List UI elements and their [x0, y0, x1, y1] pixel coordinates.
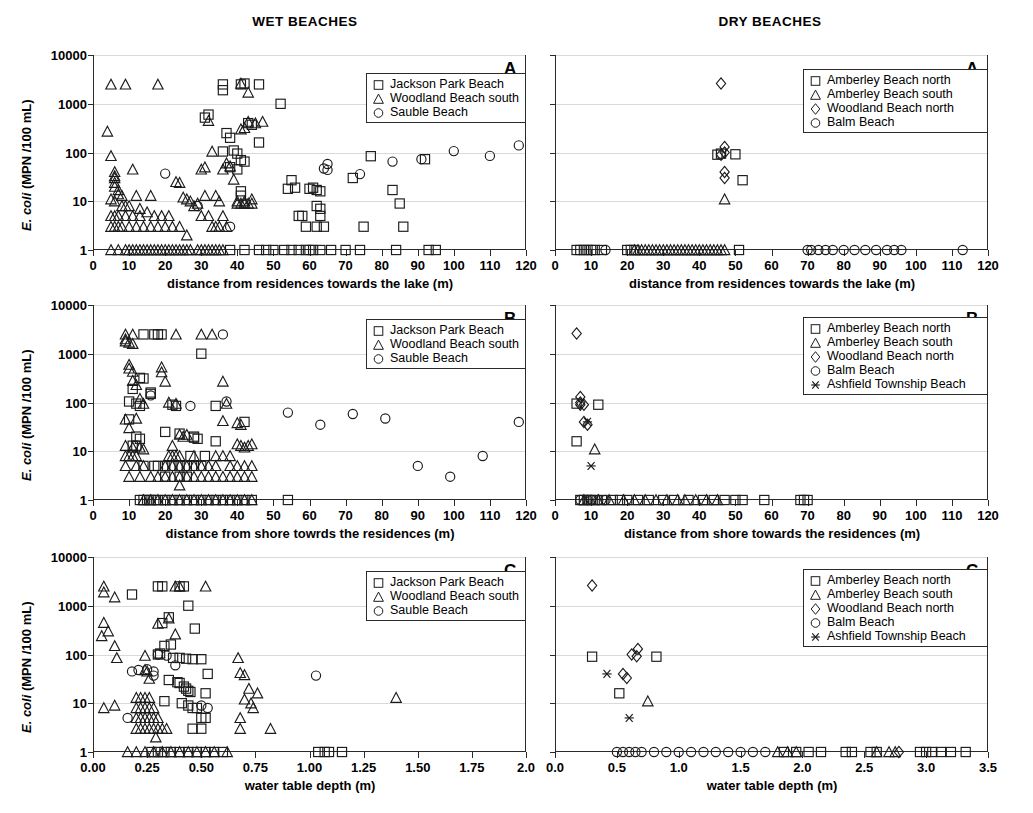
- legend-label: Amberley Beach south: [827, 588, 953, 601]
- panel-dry-C: 0.00.51.01.52.02.53.03.5water table dept…: [0, 0, 1033, 813]
- square-marker-icon: [808, 574, 823, 587]
- triangle-marker-icon: [808, 588, 823, 601]
- legend-item: Ashfield Township Beach: [808, 629, 981, 643]
- figure-root: WET BEACHES DRY BEACHES 1101001000100000…: [0, 0, 1033, 813]
- legend-item: Balm Beach: [808, 615, 981, 629]
- legend-item: Woodland Beach north: [808, 601, 981, 615]
- circle-marker-icon: [808, 616, 823, 629]
- scatter-points-dry-C: [0, 0, 1033, 813]
- legend-dry-C: Amberley Beach north Amberley Beach sout…: [803, 569, 988, 647]
- legend-label: Woodland Beach north: [827, 602, 954, 615]
- star-marker-icon: [808, 630, 823, 643]
- legend-label: Amberley Beach north: [827, 574, 951, 587]
- diamond-marker-icon: [808, 602, 823, 615]
- legend-item: Amberley Beach north: [808, 573, 981, 587]
- legend-label: Balm Beach: [827, 616, 894, 629]
- legend-item: Amberley Beach south: [808, 587, 981, 601]
- legend-label: Ashfield Township Beach: [827, 630, 966, 643]
